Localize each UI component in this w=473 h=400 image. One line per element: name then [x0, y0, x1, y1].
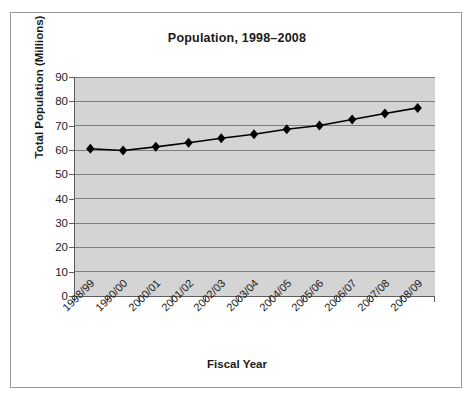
y-axis-tick-mark	[69, 272, 74, 273]
y-axis-tick-mark	[69, 126, 74, 127]
y-axis-tick-label: 90	[42, 71, 68, 83]
y-axis-tick-label: 40	[42, 193, 68, 205]
y-axis-tick-mark	[69, 150, 74, 151]
data-point-marker	[283, 124, 291, 134]
y-axis-tick-mark	[69, 77, 74, 78]
data-point-marker	[184, 138, 192, 148]
data-point-marker	[217, 133, 225, 143]
y-axis-tick-label: 50	[42, 168, 68, 180]
chart-frame: Population, 1998–2008 Total Population (…	[10, 12, 462, 388]
y-axis-tick-mark	[69, 199, 74, 200]
data-point-marker	[86, 144, 94, 154]
data-point-marker	[348, 115, 356, 125]
chart-title: Population, 1998–2008	[11, 31, 463, 45]
y-axis-tick-labels: 0102030405060708090	[38, 77, 68, 297]
x-axis-tick-mark	[434, 297, 435, 302]
y-axis-tick-label: 60	[42, 144, 68, 156]
y-axis-tick-mark	[69, 223, 74, 224]
y-axis-tick-label: 10	[42, 266, 68, 278]
y-axis-tick-label: 20	[42, 241, 68, 253]
data-series-line	[74, 77, 434, 297]
data-point-marker	[119, 145, 127, 155]
y-axis-tick-mark	[69, 247, 74, 248]
y-axis-tick-mark	[69, 101, 74, 102]
y-axis-tick-label: 80	[42, 95, 68, 107]
data-point-marker	[315, 120, 323, 130]
data-point-marker	[381, 109, 389, 119]
data-point-marker	[250, 129, 258, 139]
y-axis-tick-label: 70	[42, 120, 68, 132]
x-axis-title: Fiscal Year	[11, 358, 463, 370]
y-axis-tick-label: 30	[42, 217, 68, 229]
data-point-marker	[152, 142, 160, 152]
y-axis-tick-mark	[69, 174, 74, 175]
data-point-marker	[413, 103, 421, 113]
